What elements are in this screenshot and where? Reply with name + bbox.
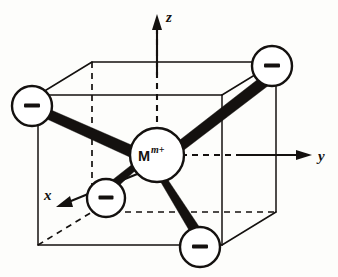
axes-group: z y x (43, 9, 325, 207)
minus-icon (192, 245, 208, 249)
cube-edge-hidden-bottom-left-diagonal (38, 212, 92, 245)
x-axis-label: x (43, 187, 52, 203)
center-atom-symbol: M (138, 148, 150, 164)
x-axis-arrowhead (56, 196, 73, 207)
minus-icon (24, 104, 40, 108)
cube-edge-bottom-right-diagonal (222, 212, 276, 245)
ligand-lower-left[interactable] (87, 179, 125, 217)
ligand-upper-right[interactable] (252, 46, 292, 86)
y-axis-label: y (316, 148, 325, 164)
y-axis-arrowhead (296, 150, 312, 160)
z-axis-label: z (165, 9, 172, 25)
minus-icon (99, 196, 114, 200)
tetrahedral-complex-diagram: z y x (0, 0, 338, 277)
minus-icon (264, 64, 280, 68)
ligand-upper-left[interactable] (12, 86, 52, 126)
z-axis-arrowhead (152, 14, 162, 30)
cube-edge-top-left-diagonal (38, 62, 92, 95)
bond-to-upper-right-ligand (176, 73, 273, 153)
figure-root: z y x (0, 0, 338, 277)
ligand-lower-right[interactable] (180, 227, 220, 267)
center-atom-superscript: m+ (151, 144, 165, 155)
center-metal-atom[interactable]: M m+ (130, 128, 184, 182)
